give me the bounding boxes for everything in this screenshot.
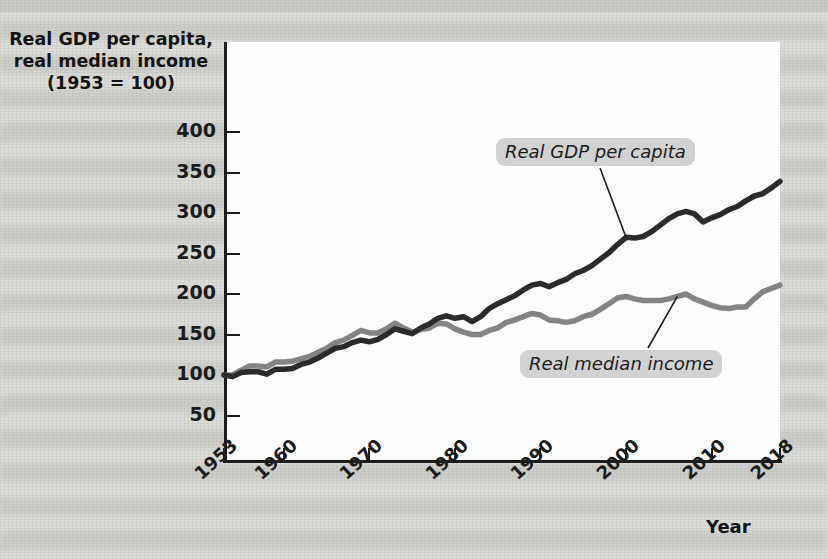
callout-leader-line-gdp bbox=[600, 168, 626, 237]
series-callout-real-gdp-per-capita: Real GDP per capita bbox=[496, 138, 695, 166]
chart-series-layer bbox=[0, 0, 828, 559]
callout-leader-line-income bbox=[648, 296, 677, 348]
series-callout-real-median-income: Real median income bbox=[520, 350, 722, 378]
series-line-real-gdp-per-capita bbox=[224, 181, 780, 376]
